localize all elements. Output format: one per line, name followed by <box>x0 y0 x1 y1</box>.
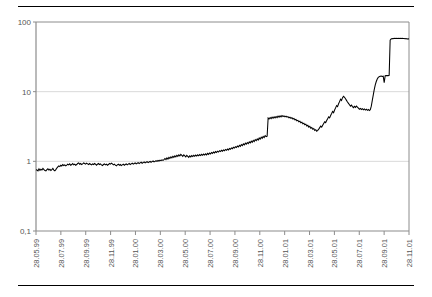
y-tick-label: 100 <box>18 18 32 27</box>
x-tick-label: 28.09.99 <box>82 239 91 268</box>
y-axis-tick-labels: 1001010,1 <box>18 18 36 236</box>
x-tick-label: 28.07.00 <box>206 239 215 268</box>
chart-figure: 1001010,1 28.05.9928.07.9928.09.9928.11.… <box>0 14 432 282</box>
x-tick-label: 28.07.01 <box>355 239 364 268</box>
top-horizontal-rule <box>18 6 414 7</box>
x-tick-label: 28.09.01 <box>380 239 389 268</box>
y-tick-label: 10 <box>22 88 31 97</box>
x-tick-label: 28.11.00 <box>256 239 265 267</box>
x-tick-label: 28.05.99 <box>32 239 41 268</box>
x-tick-label: 28.11.99 <box>107 239 116 267</box>
x-tick-label: 28.03.01 <box>306 239 315 268</box>
plot-background <box>36 22 409 231</box>
x-tick-label: 28.05.00 <box>181 239 190 268</box>
x-tick-label: 28.11.01 <box>405 239 414 267</box>
line-chart: 1001010,1 28.05.9928.07.9928.09.9928.11.… <box>0 14 432 282</box>
x-tick-label: 28.01.00 <box>131 239 140 268</box>
x-tick-label: 28.05.01 <box>330 239 339 268</box>
x-tick-label: 28.09.00 <box>231 239 240 268</box>
y-tick-label: 0,1 <box>20 227 32 236</box>
bottom-horizontal-rule <box>18 285 414 286</box>
x-tick-label: 28.01.01 <box>281 239 290 268</box>
x-tick-label: 28.03.00 <box>156 239 165 268</box>
x-axis-tick-marks <box>36 231 409 235</box>
x-tick-label: 28.07.99 <box>57 239 66 268</box>
chart-page: 1001010,1 28.05.9928.07.9928.09.9928.11.… <box>0 0 432 297</box>
x-axis-tick-labels: 28.05.9928.07.9928.09.9928.11.9928.01.00… <box>32 239 414 268</box>
y-tick-label: 1 <box>27 157 32 166</box>
